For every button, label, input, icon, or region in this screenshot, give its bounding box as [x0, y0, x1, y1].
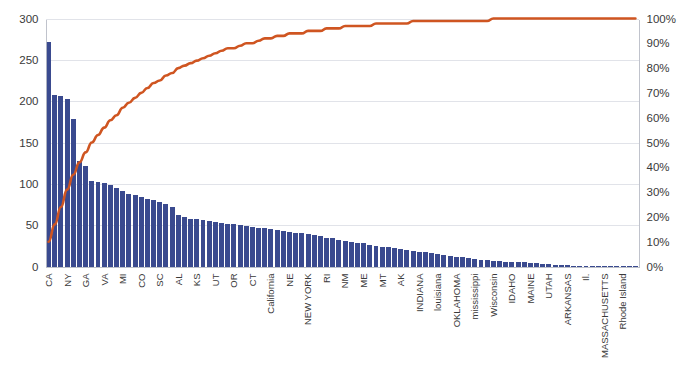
x-axis-tick-label: ARKANSAS — [562, 274, 573, 326]
bar — [565, 265, 570, 267]
y-axis-right-tick-label: 30% — [647, 186, 670, 198]
bar — [89, 181, 94, 267]
bar — [318, 236, 323, 267]
bar — [472, 259, 477, 266]
x-axis-tick-label: Il. — [580, 274, 591, 281]
bar — [114, 188, 119, 267]
bar — [281, 231, 286, 267]
bar — [256, 228, 261, 267]
bar — [503, 262, 508, 267]
x-axis-tick-label: VA — [99, 273, 110, 286]
bar — [312, 235, 317, 266]
x-axis-tick-label: UTAH — [543, 273, 554, 298]
y-axis-left-ticks: 050100150200250300 — [19, 13, 38, 273]
bar — [102, 183, 107, 266]
bar — [435, 254, 440, 266]
bar — [157, 202, 162, 266]
bar — [268, 229, 273, 266]
bar — [139, 197, 144, 266]
x-axis-tick-label: NY — [62, 273, 73, 287]
x-axis-tick-label: AK — [395, 273, 406, 286]
y-axis-right-tick-label: 100% — [647, 13, 676, 25]
bar — [306, 234, 311, 266]
bar — [96, 182, 101, 266]
x-axis-tick-label: OKLAHOMA — [451, 273, 462, 328]
bar — [417, 252, 422, 267]
bar — [411, 251, 416, 267]
bar — [596, 266, 601, 267]
bar — [182, 217, 187, 267]
bar — [466, 258, 471, 266]
x-axis-tick-label: CO — [136, 274, 147, 288]
bar — [460, 257, 465, 266]
y-axis-right-ticks: 0%10%20%30%40%50%60%70%80%90%100% — [647, 13, 676, 273]
x-axis-tick-label: MI — [117, 274, 128, 285]
bar — [441, 255, 446, 267]
y-axis-right-tick-label: 70% — [647, 87, 670, 99]
bar — [577, 266, 582, 267]
bar — [559, 265, 564, 267]
bar — [398, 249, 403, 266]
bar — [238, 225, 243, 266]
y-axis-right-tick-label: 0% — [647, 261, 664, 273]
pareto-chart: 050100150200250300 0%10%20%30%40%50%60%7… — [0, 0, 680, 379]
bar — [83, 166, 88, 267]
bar — [454, 257, 459, 267]
x-axis-tick-label: NM — [339, 273, 350, 288]
bar — [108, 185, 113, 267]
bar — [324, 238, 329, 267]
x-axis-tick-label: MASSACHUSETTS — [599, 274, 610, 358]
bar — [614, 266, 619, 267]
y-axis-right-tick-label: 10% — [647, 236, 670, 248]
bar — [330, 238, 335, 266]
bar — [608, 266, 613, 267]
bar — [163, 204, 168, 267]
x-axis-tick-label: MT — [377, 273, 388, 287]
x-axis-tick-label: OR — [228, 273, 239, 287]
bar — [176, 215, 181, 266]
bar — [126, 194, 131, 267]
x-axis-tick-label: UT — [210, 273, 221, 286]
chart-svg: 050100150200250300 0%10%20%30%40%50%60%7… — [0, 0, 680, 379]
bar — [590, 266, 595, 267]
bar — [58, 96, 63, 266]
bar — [293, 233, 298, 267]
x-axis-tick-label: KS — [191, 274, 202, 287]
bar — [201, 220, 206, 266]
y-axis-left-tick-label: 0 — [32, 261, 38, 273]
x-axis-tick-label: CA — [43, 273, 54, 287]
bar — [534, 263, 539, 266]
y-axis-right-tick-label: 50% — [647, 137, 670, 149]
bar — [207, 221, 212, 266]
y-axis-left-tick-label: 300 — [19, 13, 38, 25]
bar — [497, 261, 502, 267]
x-axis-category-labels: CANYGAVAMICOSCALKSUTORCTCaliforniaNENEW … — [43, 273, 628, 358]
bar — [479, 260, 484, 267]
bar — [52, 95, 57, 267]
bar — [380, 247, 385, 267]
bar — [627, 266, 632, 267]
bar — [546, 264, 551, 266]
bar — [225, 224, 230, 267]
y-axis-left-tick-label: 250 — [19, 54, 38, 66]
bar — [262, 228, 267, 266]
bar — [621, 266, 626, 267]
bar — [423, 252, 428, 266]
bar — [170, 207, 175, 267]
x-axis-tick-label: Rhode Island — [617, 274, 628, 330]
x-axis-tick-label: MAINE — [525, 274, 536, 304]
x-axis-tick-label: NE — [284, 274, 295, 287]
bar — [516, 262, 521, 266]
bar — [553, 265, 558, 267]
bar — [349, 242, 354, 267]
x-axis-tick-label: INDIANA — [414, 273, 425, 312]
x-axis-tick-label: ME — [358, 274, 369, 288]
bar — [244, 226, 249, 267]
bar — [151, 200, 156, 266]
bar — [392, 248, 397, 266]
x-axis-tick-label: louisiana — [432, 273, 443, 311]
bar — [361, 243, 366, 266]
x-axis-tick-label: IDAHO — [506, 274, 517, 304]
bar — [448, 256, 453, 267]
bar — [429, 253, 434, 266]
